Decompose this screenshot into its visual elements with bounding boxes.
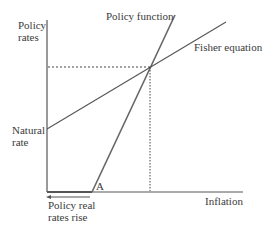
natural-rate-line-1: Natural	[12, 124, 45, 136]
natural-rate-line-2: rate	[12, 136, 45, 148]
point-a-label: A	[96, 180, 104, 192]
y-axis-label-line-1: Policy	[18, 19, 46, 31]
arrow-note-label: Policy real rates rise	[48, 199, 95, 223]
fisher-equation-label: Fisher equation	[194, 41, 262, 53]
natural-rate-label: Natural rate	[12, 124, 45, 148]
x-axis-label: Inflation	[205, 195, 243, 207]
fisher-equation-line	[47, 22, 226, 129]
y-axis-label-line-2: rates	[18, 31, 46, 43]
arrow-note-line-1: Policy real	[48, 199, 95, 211]
policy-function-label: Policy function	[106, 10, 174, 22]
y-axis-label: Policy rates	[18, 19, 46, 43]
arrow-note-line-2: rates rise	[48, 211, 95, 223]
policy-function-line	[92, 15, 175, 192]
